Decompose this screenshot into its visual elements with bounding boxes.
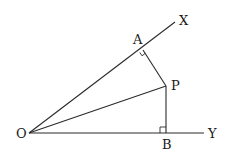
label-y: Y	[207, 126, 217, 141]
segment-ap	[143, 50, 166, 86]
ray-ox	[29, 22, 175, 133]
label-o: O	[16, 126, 27, 141]
right-angle-marker-b	[160, 127, 166, 133]
label-a: A	[132, 32, 143, 47]
segment-op	[29, 86, 166, 133]
label-b: B	[162, 137, 172, 152]
label-x: X	[179, 13, 189, 28]
label-p: P	[171, 78, 180, 93]
diagram-svg: O A P B X Y	[0, 0, 225, 163]
geometry-diagram: O A P B X Y	[0, 0, 225, 163]
